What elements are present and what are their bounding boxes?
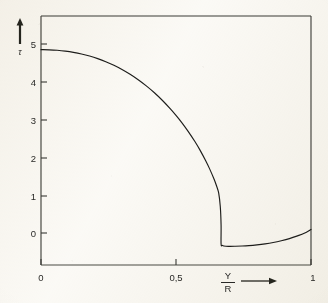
chart-plot: 5 4 3 2 1 0 0 0,5 1 τ Y R [0, 0, 328, 303]
x-tick-label-1: 1 [310, 272, 315, 283]
y-tick-label-5: 5 [31, 39, 36, 50]
y-tick-label-2: 2 [31, 153, 36, 164]
x-axis-ticks [41, 259, 311, 265]
scanned-figure: 5 4 3 2 1 0 0 0,5 1 τ Y R [0, 0, 328, 303]
y-axis-arrowhead-icon [17, 18, 24, 26]
data-series-curve [41, 50, 311, 247]
plot-frame [41, 16, 311, 265]
y-axis-tick-labels: 5 4 3 2 1 0 [31, 39, 36, 239]
x-axis-label-numerator: Y [225, 270, 232, 281]
x-tick-label-0: 0 [38, 272, 43, 283]
y-tick-label-3: 3 [31, 115, 36, 126]
y-tick-label-0: 0 [31, 228, 36, 239]
x-axis-label-denominator: R [225, 283, 232, 294]
y-axis-label-group: τ [17, 18, 24, 57]
x-tick-label-0-5: 0,5 [169, 272, 182, 283]
y-tick-label-1: 1 [31, 191, 36, 202]
y-axis-ticks [41, 44, 47, 233]
y-tick-label-4: 4 [31, 77, 36, 88]
x-axis-arrowhead-icon [269, 278, 277, 284]
x-axis-label-group: Y R [221, 270, 277, 294]
y-axis-label: τ [18, 47, 22, 57]
